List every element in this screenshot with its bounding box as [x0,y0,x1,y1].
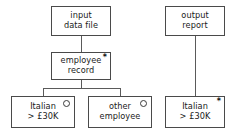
node-label-line2: employee [100,112,141,122]
node-label-line2: data file [64,21,98,31]
selection-marker-icon [140,100,147,107]
connector-report-to-italian-output [195,36,196,96]
node-other-employee[interactable]: other employee [88,96,152,128]
iteration-marker-icon: * [103,54,107,62]
node-italian-over-30k-input[interactable]: Italian > £30K [11,96,75,128]
connector-bar-to-other-employee [120,88,121,96]
jsp-structure-diagram: input data file * employee record Italia… [0,0,238,134]
connector-input-to-employee [81,36,82,52]
node-label-line2: record [68,66,94,76]
node-label-line2: > £30K [28,112,59,122]
connector-bar-to-italian-input [43,88,44,96]
node-employee-record[interactable]: * employee record [51,52,111,80]
node-input-data-file[interactable]: input data file [51,6,111,36]
iteration-marker-icon: * [217,98,221,106]
connector-employee-children-bar [43,88,121,89]
node-label-line2: > £30K [180,112,211,122]
node-italian-over-30k-output[interactable]: * Italian > £30K [165,96,225,128]
connector-employee-stem-down [81,80,82,88]
node-label-line2: report [182,21,207,31]
selection-marker-icon [63,100,70,107]
node-output-report[interactable]: output report [165,6,225,36]
